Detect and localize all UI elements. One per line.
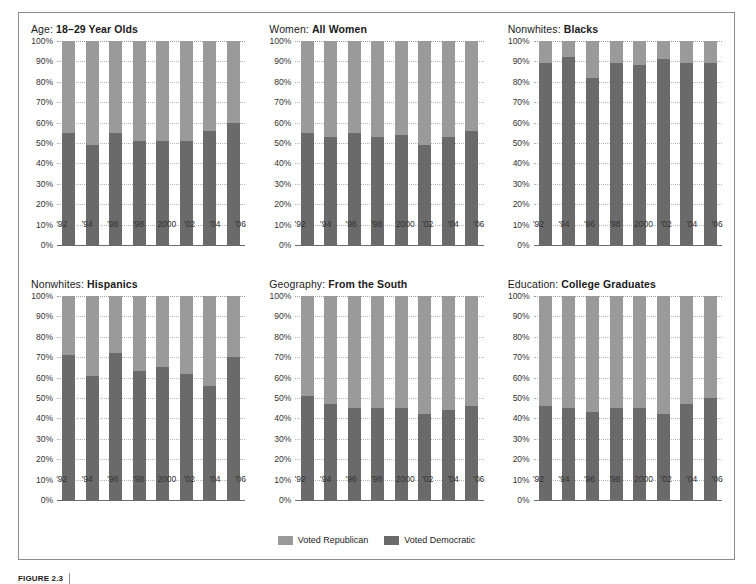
x-axis-tick: '04 (208, 474, 221, 488)
panel-title-group: From the South (328, 278, 407, 290)
y-axis-tick: 90% (274, 311, 291, 321)
stacked-bar (657, 41, 670, 245)
panel-title: Women: All Women (269, 23, 487, 35)
y-axis-tick: 40% (36, 413, 53, 423)
y-axis-labels: 100%90%80%70%60%50%40%30%20%10%0% (504, 41, 532, 245)
panel-title-category: Age: (31, 23, 53, 35)
x-axis-tick: '02 (660, 219, 673, 233)
y-axis-tick: 70% (274, 97, 291, 107)
stacked-bar (203, 41, 216, 245)
stacked-bar (465, 296, 478, 500)
plot-area: 100%90%80%70%60%50%40%30%20%10%0% (295, 296, 483, 501)
x-axis-tick: 2000 (157, 219, 170, 233)
y-axis-tick: 50% (513, 138, 530, 148)
panel-title-category: Women: (269, 23, 309, 35)
x-axis-tick: '94 (319, 474, 332, 488)
chart-panel: Geography: From the South100%90%80%70%60… (257, 268, 495, 523)
x-axis-tick: '96 (345, 219, 358, 233)
legend-label: Voted Republican (298, 535, 369, 545)
panel-grid: Age: 18–29 Year Olds100%90%80%70%60%50%4… (19, 13, 734, 523)
y-axis-tick: 20% (513, 199, 530, 209)
plot-area: 100%90%80%70%60%50%40%30%20%10%0% (534, 41, 722, 246)
stacked-bar (633, 296, 646, 500)
stacked-bar (418, 296, 431, 500)
x-axis-tick: '98 (609, 474, 622, 488)
x-axis-tick: '98 (609, 219, 622, 233)
y-axis-tick: 30% (513, 434, 530, 444)
stacked-bar (180, 296, 193, 500)
bar-group (295, 296, 483, 500)
y-axis-labels: 100%90%80%70%60%50%40%30%20%10%0% (265, 296, 293, 500)
y-axis-tick: 100% (270, 36, 292, 46)
x-axis-labels: '92'94'96'982000'02'04'06 (49, 219, 253, 233)
y-axis-tick: 40% (36, 158, 53, 168)
y-axis-tick: 60% (36, 373, 53, 383)
y-axis-tick: 100% (508, 291, 530, 301)
x-axis-tick: '92 (55, 474, 68, 488)
plot-area: 100%90%80%70%60%50%40%30%20%10%0% (57, 296, 245, 501)
stacked-bar (539, 296, 552, 500)
y-axis-tick: 0% (517, 495, 529, 505)
x-axis-tick: 2000 (396, 474, 409, 488)
x-axis-tick: '96 (583, 474, 596, 488)
x-axis-tick: '02 (421, 474, 434, 488)
y-axis-tick: 70% (36, 97, 53, 107)
y-axis-tick: 20% (36, 454, 53, 464)
panel-title-category: Geography: (269, 278, 325, 290)
y-axis-labels: 100%90%80%70%60%50%40%30%20%10%0% (27, 41, 55, 245)
y-axis-tick: 0% (517, 240, 529, 250)
stacked-bar (465, 41, 478, 245)
y-axis-labels: 100%90%80%70%60%50%40%30%20%10%0% (504, 296, 532, 500)
x-axis-tick: '06 (711, 474, 724, 488)
plot-area: 100%90%80%70%60%50%40%30%20%10%0% (57, 41, 245, 246)
x-axis-labels: '92'94'96'982000'02'04'06 (49, 474, 253, 488)
y-axis-tick: 80% (274, 77, 291, 87)
stacked-bar (418, 41, 431, 245)
stacked-bar (586, 41, 599, 245)
y-axis-tick: 60% (513, 118, 530, 128)
y-axis-tick: 80% (36, 332, 53, 342)
legend-item: Voted Republican (278, 535, 369, 545)
y-axis-tick: 80% (274, 332, 291, 342)
x-axis-tick: '02 (183, 474, 196, 488)
y-axis-tick: 50% (274, 138, 291, 148)
legend-item: Voted Democratic (384, 535, 475, 545)
stacked-bar (442, 296, 455, 500)
x-axis-labels: '92'94'96'982000'02'04'06 (287, 219, 491, 233)
x-axis-tick: 2000 (634, 219, 647, 233)
panel-title-group: All Women (312, 23, 367, 35)
bar-segment-democratic (680, 63, 693, 245)
legend-label: Voted Democratic (404, 535, 475, 545)
y-axis-tick: 40% (274, 413, 291, 423)
y-axis-tick: 100% (31, 36, 53, 46)
y-axis-tick: 20% (36, 199, 53, 209)
bar-group (295, 41, 483, 245)
stacked-bar (657, 296, 670, 500)
x-axis-tick: '06 (234, 474, 247, 488)
plot-area: 100%90%80%70%60%50%40%30%20%10%0% (295, 41, 483, 246)
y-axis-tick: 50% (274, 393, 291, 403)
y-axis-tick: 80% (36, 77, 53, 87)
y-axis-tick: 90% (513, 311, 530, 321)
chart-panel: Age: 18–29 Year Olds100%90%80%70%60%50%4… (19, 13, 257, 268)
stacked-bar (62, 41, 75, 245)
x-axis-tick: '94 (319, 219, 332, 233)
y-axis-tick: 60% (274, 118, 291, 128)
y-axis-tick: 40% (513, 158, 530, 168)
y-axis-tick: 60% (36, 118, 53, 128)
y-axis-tick: 30% (274, 434, 291, 444)
panel-title: Age: 18–29 Year Olds (31, 23, 249, 35)
bar-segment-democratic (539, 63, 552, 245)
caption-divider (69, 573, 70, 584)
x-axis-tick: 2000 (157, 474, 170, 488)
x-axis-tick: '98 (370, 219, 383, 233)
x-axis-tick: '94 (81, 219, 94, 233)
bar-segment-democratic (562, 57, 575, 245)
y-axis-tick: 50% (513, 393, 530, 403)
panel-title-category: Education: (508, 278, 559, 290)
stacked-bar (586, 296, 599, 500)
bar-segment-democratic (610, 63, 623, 245)
stacked-bar (133, 296, 146, 500)
stacked-bar (680, 41, 693, 245)
x-axis-tick: '98 (370, 474, 383, 488)
